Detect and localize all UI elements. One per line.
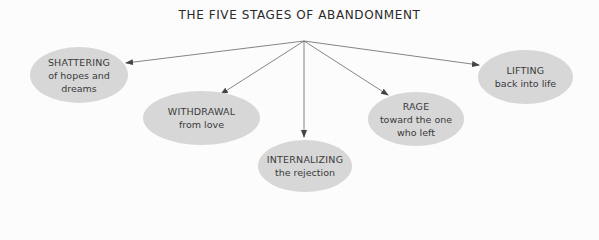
stage-heading: RAGE xyxy=(403,100,430,113)
stage-subtext: who left xyxy=(397,126,435,139)
stage-subtext: the rejection xyxy=(275,166,335,179)
stage-heading: LIFTING xyxy=(507,64,545,77)
stage-lifting: LIFTING back into life xyxy=(478,50,573,104)
stage-shattering: SHATTERING of hopes and dreams xyxy=(30,47,128,103)
arrow-rage xyxy=(304,41,388,95)
stage-withdrawal: WITHDRAWAL from love xyxy=(143,91,260,145)
arrow-lifting xyxy=(304,41,479,65)
arrow-shattering xyxy=(126,41,304,63)
stage-heading: INTERNALIZING xyxy=(267,153,343,166)
stage-subtext: back into life xyxy=(495,77,556,90)
stage-subtext: from love xyxy=(179,118,224,131)
stage-heading: SHATTERING xyxy=(48,56,110,69)
arrow-withdrawal xyxy=(221,41,304,94)
stage-subtext: toward the one xyxy=(380,113,452,126)
stage-rage: RAGE toward the one who left xyxy=(368,92,464,146)
stage-internalizing: INTERNALIZING the rejection xyxy=(258,140,352,192)
stage-subtext: of hopes and xyxy=(48,69,110,82)
stage-heading: WITHDRAWAL xyxy=(168,105,235,118)
stage-subtext: dreams xyxy=(61,82,97,95)
